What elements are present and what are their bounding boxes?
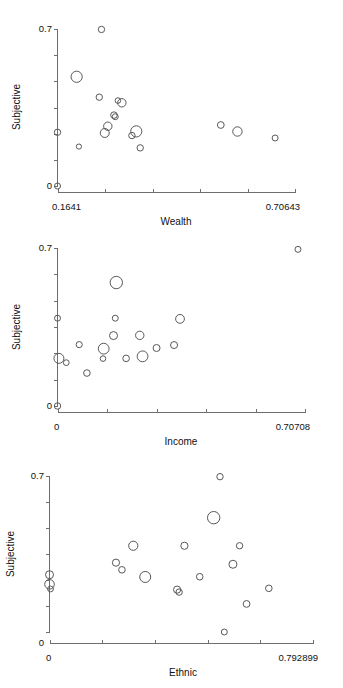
- data-point: [123, 355, 130, 362]
- data-point: [153, 344, 160, 351]
- y-axis-title-wealth: Subjective: [11, 83, 22, 130]
- data-point: [221, 629, 227, 635]
- x-tick-label-min-income: 0: [54, 421, 59, 432]
- x-tick-label-min-ethnic: 0: [46, 652, 51, 663]
- scatter-plot-ethnic: 0.7 0 0 0.792899 Ethnic Subjective: [0, 456, 343, 688]
- x-axis-title-income: Income: [165, 436, 198, 447]
- y-tick-label-top-ethnic: 0.7: [31, 470, 44, 481]
- data-points-ethnic: [45, 473, 272, 635]
- data-point: [110, 332, 118, 340]
- data-point: [137, 145, 143, 151]
- data-point: [137, 351, 148, 362]
- data-point: [136, 331, 144, 339]
- x-axis-title-wealth: Wealth: [161, 216, 192, 227]
- x-tick-label-min-wealth: 0.1641: [52, 201, 81, 212]
- chart-panel-income: 0.7 0 0 0.70708 Income Subjective: [0, 228, 343, 456]
- data-point: [98, 343, 109, 354]
- data-point: [236, 543, 242, 549]
- data-point: [76, 144, 81, 149]
- data-point: [207, 511, 219, 523]
- data-point: [84, 370, 91, 377]
- data-point: [96, 94, 102, 100]
- scatter-panel-figure: 0.7 0 0.1641 0.70643 Wealth Subjective 0…: [0, 0, 343, 688]
- y-axis-title-income: Subjective: [11, 303, 22, 350]
- data-point: [112, 315, 118, 321]
- data-point: [217, 473, 223, 479]
- x-tick-marks-wealth: [59, 189, 296, 193]
- data-point: [129, 541, 138, 550]
- x-tick-marks-ethnic: [51, 640, 314, 644]
- data-point: [233, 127, 242, 136]
- x-tick-label-max-ethnic: 0.792899: [278, 652, 318, 663]
- y-tick-label-bottom-wealth: 0: [47, 180, 52, 191]
- data-point: [176, 314, 185, 323]
- data-point: [63, 360, 69, 366]
- y-axis-title-ethnic: Subjective: [5, 530, 16, 577]
- data-point: [196, 573, 203, 580]
- x-axis-title-ethnic: Ethnic: [169, 667, 197, 678]
- data-point: [181, 542, 188, 549]
- data-point: [100, 128, 109, 137]
- data-point: [266, 585, 273, 592]
- data-point: [272, 135, 278, 141]
- data-point: [111, 112, 118, 119]
- data-point: [140, 571, 151, 582]
- scatter-plot-wealth: 0.7 0 0.1641 0.70643 Wealth Subjective: [0, 0, 343, 230]
- x-tick-marks-income: [59, 409, 306, 413]
- data-point: [217, 122, 224, 129]
- y-tick-label-bottom-ethnic: 0: [39, 637, 44, 648]
- data-point: [119, 567, 126, 574]
- y-tick-marks-wealth: [54, 30, 58, 187]
- x-tick-label-max-wealth: 0.70643: [266, 201, 300, 212]
- data-point: [171, 342, 178, 349]
- x-tick-label-max-income: 0.70708: [276, 421, 310, 432]
- data-point: [131, 126, 142, 137]
- data-point: [71, 71, 82, 82]
- y-tick-label-bottom-income: 0: [47, 400, 52, 411]
- data-point: [100, 356, 106, 362]
- data-point: [112, 559, 119, 566]
- y-tick-marks-income: [54, 249, 58, 407]
- data-point: [243, 601, 250, 608]
- data-point: [54, 353, 64, 363]
- chart-panel-wealth: 0.7 0 0.1641 0.70643 Wealth Subjective: [0, 0, 343, 230]
- data-point: [110, 276, 122, 288]
- y-tick-marks-ethnic: [46, 477, 50, 633]
- data-points-wealth: [54, 26, 278, 189]
- data-point: [229, 560, 237, 568]
- data-points-income: [54, 246, 301, 409]
- y-tick-label-top-income: 0.7: [39, 242, 52, 253]
- chart-panel-ethnic: 0.7 0 0 0.792899 Ethnic Subjective: [0, 456, 343, 688]
- data-point: [98, 26, 104, 32]
- data-point: [295, 246, 301, 252]
- data-point: [76, 342, 82, 348]
- y-tick-label-top-wealth: 0.7: [39, 23, 52, 34]
- scatter-plot-income: 0.7 0 0 0.70708 Income Subjective: [0, 228, 343, 456]
